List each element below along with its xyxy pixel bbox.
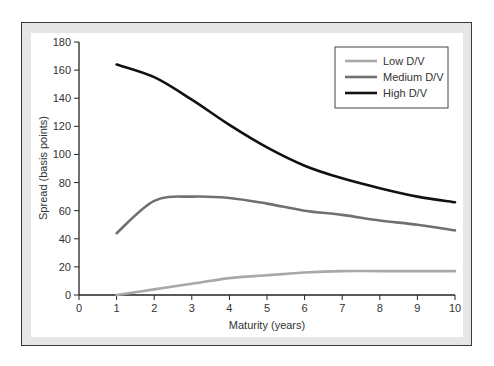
x-axis-label: Maturity (years) [229, 319, 305, 331]
series-line-medium-d-v [117, 196, 455, 233]
series-line-low-d-v [117, 271, 455, 295]
legend-label: High D/V [383, 87, 428, 99]
y-tick-label: 60 [59, 205, 71, 217]
x-tick-label: 8 [377, 302, 383, 314]
y-tick-label: 160 [53, 64, 71, 76]
y-tick-label: 0 [65, 289, 71, 301]
line-chart: 020406080100120140160180012345678910Matu… [0, 0, 494, 366]
x-tick-label: 3 [189, 302, 195, 314]
y-tick-label: 80 [59, 177, 71, 189]
x-tick-label: 1 [114, 302, 120, 314]
x-tick-label: 6 [302, 302, 308, 314]
x-tick-label: 7 [339, 302, 345, 314]
y-tick-label: 180 [53, 36, 71, 48]
x-tick-label: 9 [414, 302, 420, 314]
x-tick-label: 4 [226, 302, 232, 314]
x-tick-label: 5 [264, 302, 270, 314]
x-tick-label: 2 [151, 302, 157, 314]
x-tick-label: 10 [449, 302, 461, 314]
legend-label: Medium D/V [383, 71, 444, 83]
y-axis-label: Spread (basis points) [37, 116, 49, 220]
x-tick-label: 0 [76, 302, 82, 314]
y-tick-label: 20 [59, 261, 71, 273]
legend-label: Low D/V [383, 55, 425, 67]
y-tick-label: 100 [53, 148, 71, 160]
y-tick-label: 120 [53, 120, 71, 132]
y-tick-label: 40 [59, 233, 71, 245]
legend: Low D/VMedium D/VHigh D/V [335, 47, 448, 108]
y-tick-label: 140 [53, 92, 71, 104]
